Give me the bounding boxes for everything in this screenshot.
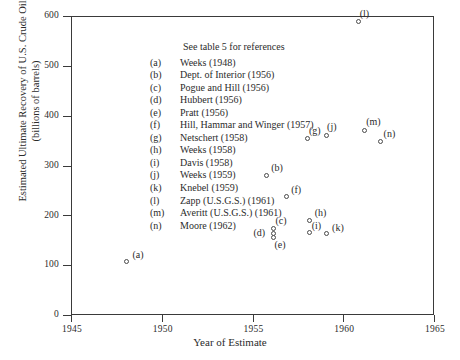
y-axis-tick: 200	[63, 215, 71, 216]
x-axis-title: Year of Estimate	[0, 336, 460, 348]
legend-item-key: (n)	[150, 220, 180, 233]
data-point-label: (d)	[253, 227, 265, 238]
legend-item: (j)Weeks (1959)	[150, 169, 314, 182]
legend-item: (n)Moore (1962)	[150, 220, 314, 233]
data-point-label: (e)	[274, 239, 285, 250]
legend-item-label: Weeks (1958)	[180, 144, 236, 155]
data-point-label: (k)	[332, 222, 344, 233]
data-point-label: (l)	[360, 8, 369, 19]
legend-item-key: (k)	[150, 182, 180, 195]
legend-item-key: (j)	[150, 169, 180, 182]
x-axis-tick-label: 1955	[244, 324, 264, 334]
legend-item-label: Dept. of Interior (1956)	[180, 69, 274, 80]
legend-item-key: (c)	[150, 82, 180, 95]
legend-item: (b)Dept. of Interior (1956)	[150, 69, 314, 82]
y-axis-tick-label: 600	[44, 10, 59, 20]
legend-item: (k)Knebel (1959)	[150, 182, 314, 195]
legend-item-label: Netschert (1958)	[180, 132, 247, 143]
legend-item: (i)Davis (1958)	[150, 157, 314, 170]
legend-item-label: Davis (1958)	[180, 157, 233, 168]
data-point-marker	[124, 259, 129, 264]
chart-page: Estimated Ultimate Recovery of U.S. Crud…	[0, 0, 460, 360]
data-point-label: (a)	[132, 249, 143, 260]
y-axis-tick-label: 0	[54, 309, 59, 319]
legend-item-label: Averitt (U.S.G.S.) (1961)	[180, 207, 281, 218]
data-point-label: (g)	[309, 125, 321, 136]
legend-item-key: (g)	[150, 132, 180, 145]
legend-item: (g)Netschert (1958)	[150, 132, 314, 145]
y-axis-title: Estimated Ultimate Recovery of U.S. Crud…	[16, 0, 42, 206]
data-point-label: (f)	[291, 184, 301, 195]
legend-item: (m)Averitt (U.S.G.S.) (1961)	[150, 207, 314, 220]
x-axis-tick-label: 1950	[153, 324, 173, 334]
data-point-marker	[307, 230, 312, 235]
data-point-label: (m)	[366, 116, 380, 127]
legend-item: (l)Zapp (U.S.G.S.) (1961)	[150, 195, 314, 208]
data-point-marker	[356, 19, 361, 24]
data-point-label: (h)	[315, 207, 327, 218]
y-axis-tick: 300	[63, 166, 71, 167]
x-axis-tick: 1945	[71, 315, 72, 322]
y-axis-tick-label: 300	[44, 160, 59, 170]
data-point-label: (j)	[327, 121, 336, 132]
legend-title: See table 5 for references	[183, 41, 314, 54]
y-axis-title-line1: Estimated Ultimate Recovery of U.S. Crud…	[17, 0, 28, 201]
legend-item-key: (a)	[150, 57, 180, 70]
data-point-label: (b)	[271, 162, 283, 173]
legend-entries: (a)Weeks (1948)(b)Dept. of Interior (195…	[150, 57, 314, 233]
x-axis-tick-label: 1960	[334, 324, 354, 334]
legend-item-key: (i)	[150, 157, 180, 170]
legend-item-label: Zapp (U.S.G.S.) (1961)	[180, 195, 274, 206]
y-axis-tick-label: 500	[44, 60, 59, 70]
legend-item-label: Knebel (1959)	[180, 182, 238, 193]
y-axis-tick: 600	[63, 16, 71, 17]
legend-item: (f)Hill, Hammar and Winger (1957)	[150, 119, 314, 132]
legend-item-label: Weeks (1959)	[180, 169, 236, 180]
y-axis-tick-label: 100	[44, 259, 59, 269]
data-point-label: (c)	[275, 215, 286, 226]
y-axis-tick: 0	[63, 315, 71, 316]
y-axis-tick-label: 200	[44, 210, 59, 220]
legend-item-key: (f)	[150, 119, 180, 132]
legend-item: (e)Pratt (1956)	[150, 107, 314, 120]
data-point-marker	[362, 128, 367, 133]
legend-item-key: (d)	[150, 94, 180, 107]
y-axis-tick: 500	[63, 66, 71, 67]
data-point-label: (i)	[312, 220, 321, 231]
data-point-marker	[324, 133, 329, 138]
data-point-marker	[264, 173, 269, 178]
data-point-label: (n)	[384, 128, 396, 139]
y-axis-tick: 100	[63, 265, 71, 266]
legend-item-key: (b)	[150, 69, 180, 82]
legend-item-label: Hubbert (1956)	[180, 94, 242, 105]
x-axis-tick-label: 1965	[425, 324, 445, 334]
legend: See table 5 for references (a)Weeks (194…	[150, 41, 314, 232]
legend-item-label: Pogue and Hill (1956)	[180, 82, 269, 93]
legend-item-label: Moore (1962)	[180, 220, 236, 231]
y-axis-tick-label: 400	[44, 110, 59, 120]
data-point-marker	[378, 139, 383, 144]
plot-area: See table 5 for references (a)Weeks (194…	[71, 16, 434, 315]
y-axis-tick: 400	[63, 116, 71, 117]
legend-item-label: Weeks (1948)	[180, 57, 236, 68]
legend-item-label: Hill, Hammar and Winger (1957)	[180, 119, 314, 130]
x-axis-tick: 1965	[434, 315, 435, 322]
legend-item-label: Pratt (1956)	[180, 107, 228, 118]
legend-item-key: (l)	[150, 195, 180, 208]
y-axis-title-line2: (billions of barrels)	[29, 0, 42, 206]
legend-item: (d)Hubbert (1956)	[150, 94, 314, 107]
legend-item: (a)Weeks (1948)	[150, 57, 314, 70]
x-axis-tick: 1950	[162, 315, 163, 322]
data-point-marker	[324, 231, 329, 236]
x-axis-tick: 1960	[343, 315, 344, 322]
legend-item: (h)Weeks (1958)	[150, 144, 314, 157]
legend-item: (c)Pogue and Hill (1956)	[150, 82, 314, 95]
legend-item-key: (e)	[150, 107, 180, 120]
x-axis-tick: 1955	[253, 315, 254, 322]
legend-item-key: (m)	[150, 207, 180, 220]
x-axis-tick-label: 1945	[62, 324, 82, 334]
legend-item-key: (h)	[150, 144, 180, 157]
